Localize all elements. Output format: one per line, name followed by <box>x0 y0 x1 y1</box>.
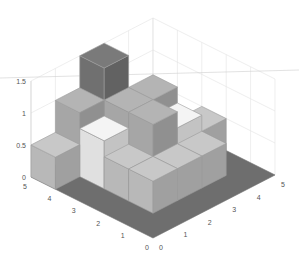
z-tick-label: 1 <box>22 110 26 117</box>
z-tick-label: 0.5 <box>16 142 26 149</box>
y-tick-label: 2 <box>208 219 212 226</box>
x-tick-label: 2 <box>96 220 100 227</box>
y-tick-label: 4 <box>257 194 261 201</box>
x-tick-label: 0 <box>145 244 149 251</box>
y-tick-label: 1 <box>183 231 187 238</box>
y-tick-label: 0 <box>159 244 163 251</box>
grid-line-horizontal <box>153 18 275 79</box>
x-tick-label: 5 <box>23 183 27 190</box>
y-tick-label: 3 <box>232 206 236 213</box>
bar3-chart: 00.511.5012345012345 <box>0 0 299 260</box>
z-tick-label: 1.5 <box>16 78 26 85</box>
y-tick-label: 5 <box>281 181 285 188</box>
x-tick-label: 1 <box>121 232 125 239</box>
x-tick-label: 4 <box>47 195 51 202</box>
z-tick-label: 0 <box>22 174 26 181</box>
x-tick-label: 3 <box>72 207 76 214</box>
